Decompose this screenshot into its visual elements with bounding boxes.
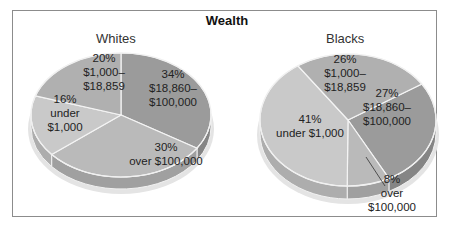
- blacks-pie: 27%$18,860–$100,0008%over$100,00041%unde…: [257, 53, 439, 213]
- whites-pie: 34%$18,860–$100,00030%over $100,00016%un…: [28, 52, 214, 194]
- pie-charts: 34%$18,860–$100,00030%over $100,00016%un…: [0, 0, 454, 239]
